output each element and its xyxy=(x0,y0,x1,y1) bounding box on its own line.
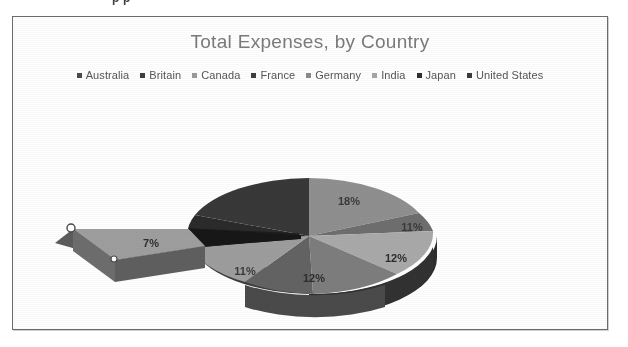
pie-label-australia: 18% xyxy=(338,195,360,207)
legend-item-label: Australia xyxy=(86,69,130,81)
legend-item-label: Japan xyxy=(426,69,456,81)
chart-legend[interactable]: AustraliaBritainCanadaFranceGermanyIndia… xyxy=(13,69,607,81)
legend-swatch-icon xyxy=(372,73,377,78)
legend-item-united-states[interactable]: United States xyxy=(467,69,543,81)
pie-chart-plot-area[interactable]: 18% 11% 12% 12% 11% 7% xyxy=(13,95,609,329)
legend-swatch-icon xyxy=(467,73,472,78)
pie-label-britain: 11% xyxy=(401,221,423,233)
legend-item-label: India xyxy=(381,69,405,81)
legend-item-australia[interactable]: Australia xyxy=(77,69,130,81)
pie-slice-exploded[interactable] xyxy=(73,229,205,282)
pie-label-germany: 11% xyxy=(234,265,256,277)
legend-swatch-icon xyxy=(306,73,311,78)
legend-item-japan[interactable]: Japan xyxy=(417,69,456,81)
chart-object-frame[interactable]: Total Expenses, by Country AustraliaBrit… xyxy=(12,16,608,330)
pie-label-canada: 12% xyxy=(385,252,407,264)
legend-swatch-icon xyxy=(192,73,197,78)
legend-item-label: Germany xyxy=(315,69,361,81)
legend-item-india[interactable]: India xyxy=(372,69,405,81)
clipped-header-text: p p xyxy=(112,0,412,5)
legend-item-label: Canada xyxy=(201,69,240,81)
legend-swatch-icon xyxy=(140,73,145,78)
legend-item-canada[interactable]: Canada xyxy=(192,69,240,81)
legend-swatch-icon xyxy=(251,73,256,78)
chart-title: Total Expenses, by Country xyxy=(13,31,607,53)
legend-item-label: France xyxy=(260,69,295,81)
legend-item-label: Britain xyxy=(149,69,181,81)
legend-swatch-icon xyxy=(77,73,82,78)
selection-handle-top[interactable] xyxy=(67,224,75,232)
pie-label-france: 12% xyxy=(303,272,325,284)
legend-item-label: United States xyxy=(476,69,543,81)
pie-label-india: 7% xyxy=(143,237,159,249)
pie-chart-svg[interactable]: 18% 11% 12% 12% 11% 7% xyxy=(13,95,609,329)
legend-item-france[interactable]: France xyxy=(251,69,295,81)
legend-item-britain[interactable]: Britain xyxy=(140,69,181,81)
legend-swatch-icon xyxy=(417,73,422,78)
legend-item-germany[interactable]: Germany xyxy=(306,69,361,81)
selection-handle-bottom[interactable] xyxy=(111,256,117,262)
